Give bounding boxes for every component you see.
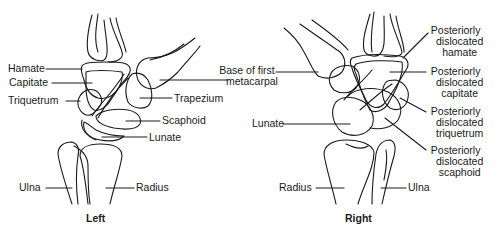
label-right-lunate: Lunate	[252, 118, 284, 129]
right-triquetrum	[383, 80, 409, 110]
right-ulna	[372, 140, 395, 204]
label-right-radius: Radius	[279, 182, 312, 193]
right-metacarpal-2	[384, 14, 402, 57]
caption-right: Right	[345, 212, 372, 224]
label-right-capitate: Posteriorly dislocated capitate	[428, 66, 483, 99]
left-first-metacarpal	[136, 38, 200, 89]
leader-right-scaphoid	[385, 118, 426, 150]
label-left-triquetrum: Triquetrum	[8, 95, 58, 106]
label-left-capitate: Capitate	[9, 77, 48, 88]
right-radius	[324, 140, 374, 204]
right-metacarpal-3	[363, 14, 384, 56]
right-crossing-1	[344, 70, 372, 100]
label-left-ulna: Ulna	[19, 182, 41, 193]
label-base-line-2: metacarpal	[216, 76, 278, 87]
caption-left: Left	[86, 212, 105, 224]
left-ulna	[58, 142, 79, 204]
left-scaphoid	[96, 109, 141, 129]
left-metacarpal-2	[116, 18, 126, 52]
label-left-radius: Radius	[136, 182, 169, 193]
left-metacarpal-3	[96, 14, 98, 52]
leader-right-hamate	[403, 33, 428, 58]
label-right-hamate: Posteriorly dislocated hamate	[428, 25, 483, 58]
label-left-scaphoid: Scaphoid	[162, 115, 206, 126]
right-ulna-inner	[384, 150, 387, 180]
label-right-triquetrum-line-3: triquetrum	[428, 128, 483, 139]
left-trapezium	[126, 73, 152, 108]
label-left-lunate: Lunate	[149, 132, 181, 143]
label-right-hamate-line-3: hamate	[428, 47, 483, 58]
wrist-diagram-art	[0, 0, 498, 235]
right-metacarpal-4	[371, 12, 374, 52]
left-hamate	[81, 62, 130, 99]
right-capitate	[355, 61, 403, 112]
label-right-capitate-line-3: capitate	[428, 88, 483, 99]
left-metacarpal-5	[108, 18, 122, 62]
right-radius-inner	[346, 144, 368, 148]
left-radius	[80, 144, 122, 204]
label-right-ulna: Ulna	[408, 182, 430, 193]
label-right-scaphoid: Posteriorly dislocated scaphoid	[428, 145, 483, 178]
right-wrist-drawing	[276, 12, 428, 204]
label-right-triquetrum: Posteriorly dislocated triquetrum	[428, 106, 483, 139]
label-base-of-first-metacarpal: Base of first metacarpal	[216, 65, 278, 87]
label-left-hamate: Hamate	[8, 63, 45, 74]
left-wrist-drawing	[46, 14, 200, 204]
label-right-scaphoid-line-3: scaphoid	[428, 167, 483, 178]
leader-right-triquetrum	[400, 98, 426, 112]
right-first-metacarpal	[284, 24, 345, 78]
label-left-trapezium: Trapezium	[174, 93, 223, 104]
